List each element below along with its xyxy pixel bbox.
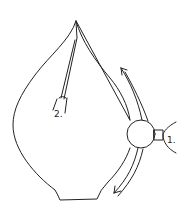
upper-flow-arrow	[121, 68, 148, 121]
label-2: 2.	[54, 109, 63, 119]
upper-arrow-line-outer	[121, 68, 142, 120]
lower-arrow-line-inner	[118, 149, 143, 196]
label-1: 1.	[167, 135, 176, 145]
probe-rod	[61, 22, 77, 99]
chamber-outline	[13, 21, 130, 200]
probe-part-2: 2.	[53, 22, 77, 119]
lower-flow-arrow	[114, 148, 143, 196]
sphere	[127, 120, 155, 148]
diagram-canvas: 2. 1.	[0, 0, 184, 214]
sphere-part-1: 1.	[127, 120, 176, 153]
